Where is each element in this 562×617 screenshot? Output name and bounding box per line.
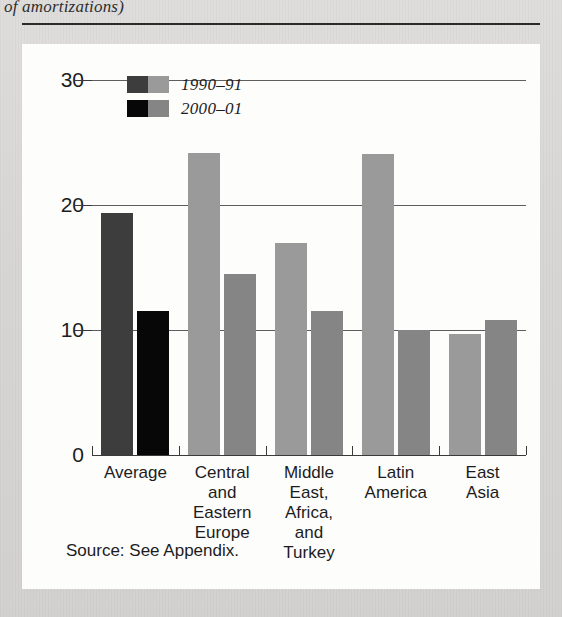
x-axis-category-label-2: Central and Eastern Europe [179, 463, 266, 543]
bar-3-series-2 [311, 311, 343, 455]
x-axis-category-label-5: East Asia [439, 463, 526, 503]
y-tick-dash-10 [74, 330, 92, 331]
legend-label-2000-01: 2000–01 [181, 99, 243, 119]
legend-swatch-2000-01 [127, 100, 169, 117]
bar-1-series-2 [137, 311, 169, 455]
legend-item: 1990–91 [127, 74, 243, 95]
bar-chart-plot-area: 0102030AverageCentral and Eastern Europe… [22, 44, 540, 589]
y-tick-dash-20 [74, 205, 92, 206]
x-axis-category-label-3: Middle East, Africa, and Turkey [266, 463, 353, 563]
gridline-20 [92, 205, 526, 206]
bar-4-series-1 [362, 154, 394, 455]
horizontal-rule [22, 23, 540, 25]
y-axis-label-0: 0 [44, 443, 84, 467]
figure-caption-tail: of amortizations) [4, 0, 364, 19]
bar-3-series-1 [275, 243, 307, 456]
legend-swatch-1990-91 [127, 76, 169, 93]
x-axis-category-label-1: Average [92, 463, 179, 483]
legend-item: 2000–01 [127, 98, 243, 119]
y-axis-stub [92, 446, 93, 456]
source-note: Source: See Appendix. [66, 541, 239, 561]
y-tick-dash-30 [74, 80, 92, 81]
chart-panel: 0102030AverageCentral and Eastern Europe… [22, 44, 540, 589]
bar-1-series-1 [101, 213, 133, 456]
x-axis-tick-4 [439, 446, 440, 455]
bar-2-series-1 [188, 153, 220, 456]
x-axis-tick-5 [526, 446, 527, 455]
chart-legend: 1990–91 2000–01 [127, 74, 243, 122]
legend-label-1990-91: 1990–91 [181, 75, 243, 95]
x-axis-tick-3 [352, 446, 353, 455]
x-axis-tick-2 [266, 446, 267, 455]
bar-4-series-2 [398, 330, 430, 455]
bar-2-series-2 [224, 274, 256, 455]
bar-5-series-1 [449, 334, 481, 455]
x-axis-category-label-4: Latin America [352, 463, 439, 503]
x-axis-line [92, 455, 526, 456]
bar-5-series-2 [485, 320, 517, 455]
x-axis-tick-1 [179, 446, 180, 455]
